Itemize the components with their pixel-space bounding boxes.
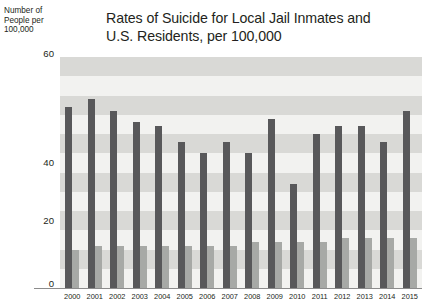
x-tick-label: 2006	[196, 292, 219, 305]
bar-group	[219, 57, 242, 288]
bar-group	[354, 57, 377, 288]
x-tick-label: 2003	[129, 292, 152, 305]
bar-us-suicide-rate	[162, 246, 169, 288]
bar-jail-suicide-rate	[380, 142, 387, 288]
bar-us-suicide-rate	[207, 246, 214, 288]
plot-area	[60, 57, 422, 288]
bar-jail-suicide-rate	[200, 153, 207, 288]
bar-group	[106, 57, 129, 288]
x-tick-label: 2012	[331, 292, 354, 305]
bar-us-suicide-rate	[297, 242, 304, 288]
x-tick-label: 2000	[61, 292, 84, 305]
bar-jail-suicide-rate	[290, 184, 297, 288]
bar-group	[286, 57, 309, 288]
bar-jail-suicide-rate	[223, 142, 230, 288]
bar-group	[331, 57, 354, 288]
x-tick-label: 2002	[106, 292, 129, 305]
bar-group	[264, 57, 287, 288]
bar-jail-suicide-rate	[403, 111, 410, 288]
x-axis-line	[34, 288, 422, 289]
bar-jail-suicide-rate	[88, 99, 95, 288]
chart-figure: Number of People per 100,000 Rates of Su…	[0, 0, 422, 305]
bar-us-suicide-rate	[320, 242, 327, 288]
bar-group	[61, 57, 84, 288]
chart-title: Rates of Suicide for Local Jail Inmates …	[106, 9, 418, 45]
bar-us-suicide-rate	[275, 242, 282, 288]
x-tick-label: 2014	[376, 292, 399, 305]
bar-group	[376, 57, 399, 288]
bar-group	[399, 57, 422, 288]
x-tick-label: 2015	[399, 292, 422, 305]
bar-jail-suicide-rate	[110, 111, 117, 288]
bar-jail-suicide-rate	[313, 134, 320, 288]
y-axis-label: Number of People per 100,000	[4, 6, 62, 35]
bar-us-suicide-rate	[410, 238, 417, 288]
x-tick-label: 2010	[286, 292, 309, 305]
bar-us-suicide-rate	[117, 246, 124, 288]
x-tick-label: 2008	[241, 292, 264, 305]
bar-us-suicide-rate	[185, 246, 192, 288]
y-axis-label-line-1: Number of	[4, 6, 62, 16]
bar-us-suicide-rate	[72, 250, 79, 289]
x-tick-label: 2005	[174, 292, 197, 305]
chart-title-line-1: Rates of Suicide for Local Jail Inmates …	[106, 9, 418, 27]
bar-jail-suicide-rate	[268, 119, 275, 288]
bar-us-suicide-rate	[342, 238, 349, 288]
y-tick-40: 40	[0, 157, 54, 168]
x-tick-label: 2007	[219, 292, 242, 305]
y-tick-60: 60	[0, 48, 54, 59]
bar-group	[174, 57, 197, 288]
bar-group	[151, 57, 174, 288]
bar-jail-suicide-rate	[65, 107, 72, 288]
bar-us-suicide-rate	[95, 246, 102, 288]
x-axis-tick-labels: 2000200120022003200420052006200720082009…	[60, 292, 422, 305]
bar-us-suicide-rate	[365, 238, 372, 288]
bar-jail-suicide-rate	[335, 126, 342, 288]
bar-jail-suicide-rate	[358, 126, 365, 288]
bar-group	[241, 57, 264, 288]
x-tick-label: 2011	[309, 292, 332, 305]
bar-jail-suicide-rate	[178, 142, 185, 288]
x-tick-label: 2001	[84, 292, 107, 305]
bar-us-suicide-rate	[140, 246, 147, 288]
x-tick-label: 2004	[151, 292, 174, 305]
bar-us-suicide-rate	[387, 238, 394, 288]
x-tick-label: 2009	[264, 292, 287, 305]
bar-jail-suicide-rate	[133, 122, 140, 288]
bar-us-suicide-rate	[230, 246, 237, 288]
y-tick-20: 20	[0, 215, 54, 226]
bar-us-suicide-rate	[252, 242, 259, 288]
chart-title-line-2: U.S. Residents, per 100,000	[106, 27, 418, 45]
bar-group	[196, 57, 219, 288]
x-tick-label: 2013	[354, 292, 377, 305]
bar-jail-suicide-rate	[245, 153, 252, 288]
bar-jail-suicide-rate	[155, 126, 162, 288]
y-axis-label-line-3: 100,000	[4, 25, 62, 35]
bar-group	[129, 57, 152, 288]
bar-series-container	[60, 57, 422, 288]
bar-group	[309, 57, 332, 288]
bar-group	[84, 57, 107, 288]
y-axis-label-line-2: People per	[4, 16, 62, 26]
